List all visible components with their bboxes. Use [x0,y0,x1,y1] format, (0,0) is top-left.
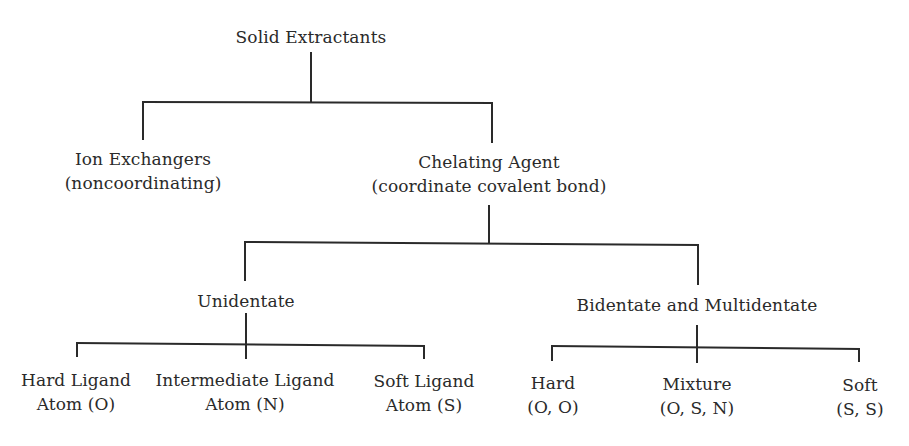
node-subtitle: (O, O) [527,395,579,419]
node-title: Soft Ligand [373,369,474,393]
mixture-osn-node: Mixture (O, S, N) [660,372,735,420]
soft-ss-node: Soft (S, S) [836,373,883,421]
root-label: Solid Extractants [236,25,387,49]
hard-oo-node: Hard (O, O) [527,371,579,419]
intermediate-ligand-atom-node: Intermediate Ligand Atom (N) [155,368,334,416]
node-subtitle: (O, S, N) [660,396,735,420]
multidentate-node: Bidentate and Multidentate [577,293,818,317]
node-subtitle: (noncoordinating) [65,171,222,195]
node-title: Intermediate Ligand [155,368,334,392]
node-subtitle: (coordinate covalent bond) [372,174,607,198]
unidentate-node: Unidentate [197,289,294,313]
root-node: Solid Extractants [236,25,387,49]
node-title: Mixture [660,372,735,396]
node-subtitle: (S, S) [836,397,883,421]
node-subtitle: Atom (O) [21,392,131,416]
hard-ligand-atom-node: Hard Ligand Atom (O) [21,368,131,416]
ion-exchangers-node: Ion Exchangers (noncoordinating) [65,147,222,195]
chelating-agent-node: Chelating Agent (coordinate covalent bon… [372,150,607,198]
node-title: Soft [836,373,883,397]
node-subtitle: Atom (N) [155,392,334,416]
node-title: Hard [527,371,579,395]
node-subtitle: Atom (S) [373,393,474,417]
soft-ligand-atom-node: Soft Ligand Atom (S) [373,369,474,417]
node-title: Ion Exchangers [65,147,222,171]
node-title: Hard Ligand [21,368,131,392]
node-title: Chelating Agent [372,150,607,174]
node-title: Bidentate and Multidentate [577,293,818,317]
node-title: Unidentate [197,289,294,313]
